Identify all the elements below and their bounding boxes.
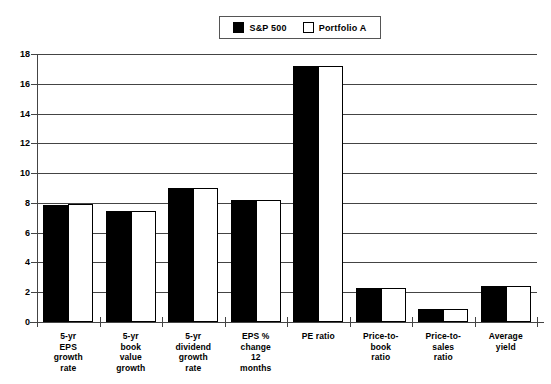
bar-sp500 (293, 66, 318, 322)
y-axis-tick-label: 4 (8, 257, 30, 267)
x-axis-category-label: PE ratio (287, 331, 350, 342)
bar-sp500 (43, 205, 68, 322)
bar-group (100, 54, 163, 322)
x-axis-category-label: Price-to-bookratio (350, 331, 413, 363)
y-axis-tick-label: 6 (8, 228, 30, 238)
y-axis-tick-label: 8 (8, 198, 30, 208)
y-axis-tick-mark (31, 292, 38, 293)
bar-portfolio-a (256, 200, 281, 322)
legend-label: Portfolio A (319, 23, 367, 33)
x-axis-category-label: Price-to-salesratio (412, 331, 475, 363)
bar-portfolio-a (381, 288, 406, 322)
bar-portfolio-a (68, 204, 93, 322)
x-axis-tick-mark (412, 317, 413, 327)
bar-group (475, 54, 538, 322)
x-axis-category-label: Averageyield (475, 331, 538, 352)
bar-sp500 (231, 200, 256, 322)
bar-sp500 (168, 188, 193, 322)
x-axis-tick-mark (287, 317, 288, 327)
bar-sp500 (106, 211, 131, 322)
bar-group (162, 54, 225, 322)
y-axis-tick-label: 2 (8, 287, 30, 297)
bar-chart: S&P 500Portfolio A 0246810121416185-yrEP… (0, 0, 551, 384)
x-axis-category-label: 5-yrbookvaluegrowth (100, 331, 163, 373)
plot-area (37, 54, 537, 322)
y-axis-tick-mark (31, 262, 38, 263)
legend-entry: Portfolio A (303, 22, 367, 33)
y-axis-tick-mark (31, 173, 38, 174)
filled-square-icon (233, 22, 244, 33)
x-axis-tick-mark (162, 317, 163, 327)
y-axis-tick-label: 12 (8, 138, 30, 148)
hollow-square-icon (303, 22, 314, 33)
y-axis-tick-label: 0 (8, 317, 30, 327)
bar-group (350, 54, 413, 322)
bar-group (225, 54, 288, 322)
y-axis-tick-label: 18 (8, 49, 30, 59)
x-axis-tick-mark (37, 317, 38, 327)
y-axis-tick-label: 14 (8, 109, 30, 119)
y-axis-tick-label: 16 (8, 79, 30, 89)
bar-portfolio-a (506, 286, 531, 322)
bar-sp500 (418, 309, 443, 322)
x-axis-tick-mark (100, 317, 101, 327)
x-axis-tick-mark (475, 317, 476, 327)
y-axis-tick-mark (31, 84, 38, 85)
bar-portfolio-a (131, 211, 156, 322)
x-axis-category-label: 5-yrEPSgrowthrate (37, 331, 100, 373)
y-axis-tick-mark (31, 143, 38, 144)
y-axis-tick-mark (31, 233, 38, 234)
bar-sp500 (481, 286, 506, 322)
y-axis-tick-mark (31, 203, 38, 204)
bar-portfolio-a (443, 309, 468, 322)
bar-group (37, 54, 100, 322)
chart-legend: S&P 500Portfolio A (219, 16, 381, 39)
bar-group (412, 54, 475, 322)
legend-entry: S&P 500 (233, 22, 286, 33)
bar-portfolio-a (318, 66, 343, 322)
y-axis-tick-label: 10 (8, 168, 30, 178)
x-axis-category-label: EPS %change12months (225, 331, 288, 373)
x-axis-category-label: 5-yrdividendgrowthrate (162, 331, 225, 373)
y-axis-tick-mark (31, 114, 38, 115)
x-axis-tick-mark (537, 317, 538, 327)
bar-group (287, 54, 350, 322)
bar-portfolio-a (193, 188, 218, 322)
x-axis-tick-mark (350, 317, 351, 327)
x-axis-tick-mark (225, 317, 226, 327)
y-axis-tick-mark (31, 54, 38, 55)
bar-sp500 (356, 288, 381, 322)
legend-label: S&P 500 (249, 23, 286, 33)
